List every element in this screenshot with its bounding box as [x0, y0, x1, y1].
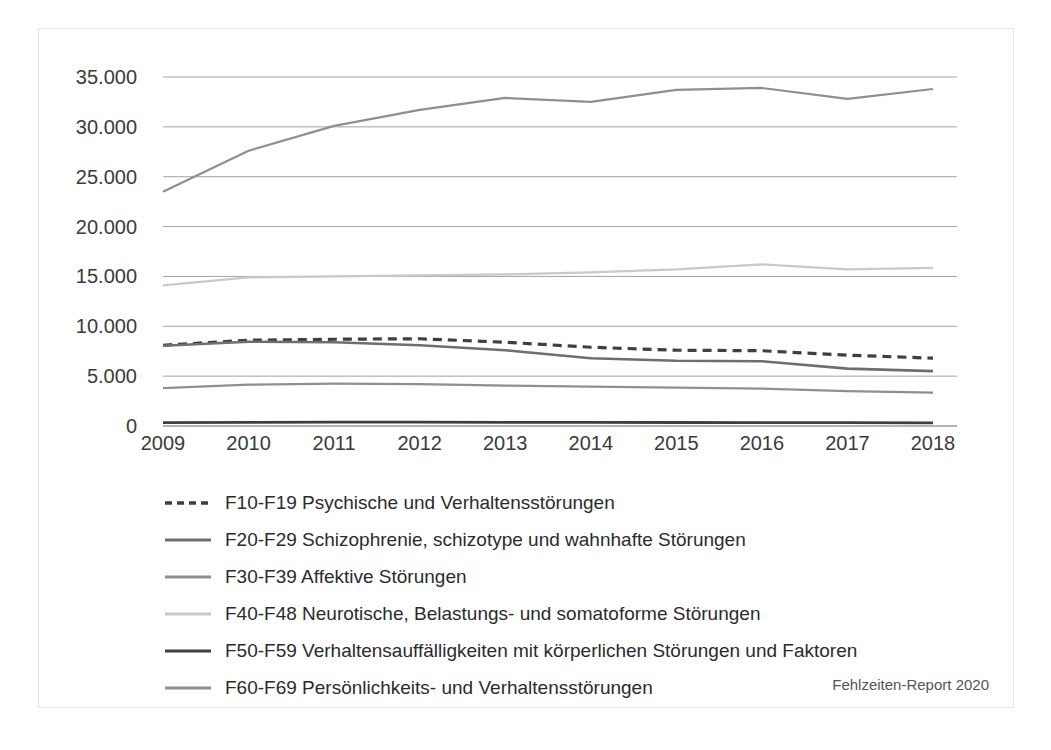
y-tick-label: 25.000: [65, 167, 151, 187]
x-tick-label-2012: 2012: [397, 433, 442, 453]
y-tick-text: 20.000: [65, 217, 151, 237]
y-tick-label: 10.000: [65, 316, 151, 336]
legend-item-label: F20-F29 Schizophrenie, schizotype und wa…: [225, 530, 746, 549]
source-note: Fehlzeiten-Report 2020: [832, 676, 989, 693]
y-tick-text: 30.000: [65, 117, 151, 137]
series-line-F60-F69: [163, 384, 933, 393]
x-tick-label-2009: 2009: [141, 433, 186, 453]
legend-swatch-icon: [165, 681, 211, 695]
legend-item-F20-F29[interactable]: F20-F29 Schizophrenie, schizotype und wa…: [165, 521, 985, 558]
legend-item-label: F10-F19 Psychische und Verhaltensstörung…: [225, 493, 615, 512]
y-tick-text: 5.000: [65, 366, 151, 386]
legend-item-F10-F19[interactable]: F10-F19 Psychische und Verhaltensstörung…: [165, 484, 985, 521]
y-axis: 05.00010.00015.00020.00025.00030.00035.0…: [39, 77, 151, 426]
x-tick-label-2015: 2015: [654, 433, 699, 453]
legend-item-F50-F59[interactable]: F50-F59 Verhaltensauffälligkeiten mit kö…: [165, 632, 985, 669]
x-tick-label-2014: 2014: [569, 433, 614, 453]
legend-item-label: F50-F59 Verhaltensauffälligkeiten mit kö…: [225, 641, 857, 660]
plot-area: [163, 77, 957, 426]
legend-swatch-icon: [165, 644, 211, 658]
chart-legend: F10-F19 Psychische und Verhaltensstörung…: [165, 484, 985, 706]
legend-swatch-icon: [165, 533, 211, 547]
y-tick-label: 5.000: [65, 366, 151, 386]
legend-item-label: F40-F48 Neurotische, Belastungs- und som…: [225, 604, 760, 623]
legend-swatch-icon: [165, 496, 211, 510]
series-line-F20-F29: [163, 342, 933, 371]
x-tick-label-2011: 2011: [313, 433, 356, 453]
legend-swatch-icon: [165, 607, 211, 621]
x-tick-label-2016: 2016: [740, 433, 785, 453]
x-tick-label-2010: 2010: [226, 433, 271, 453]
y-tick-text: 35.000: [65, 67, 151, 87]
legend-item-label: F30-F39 Affektive Störungen: [225, 567, 467, 586]
x-tick-label-2017: 2017: [825, 433, 870, 453]
legend-swatch-icon: [165, 570, 211, 584]
legend-item-label: F60-F69 Persönlichkeits- und Verhaltenss…: [225, 678, 653, 697]
y-tick-text: 25.000: [65, 167, 151, 187]
series-line-F50-F59: [163, 422, 933, 423]
y-tick-label: 20.000: [65, 217, 151, 237]
legend-item-F40-F48[interactable]: F40-F48 Neurotische, Belastungs- und som…: [165, 595, 985, 632]
y-tick-text: 15.000: [65, 266, 151, 286]
series-line-F40-F48: [163, 264, 933, 285]
y-tick-label: 0: [65, 416, 151, 436]
series-line-F30-F39: [163, 88, 933, 192]
x-tick-label-2018: 2018: [911, 433, 956, 453]
x-axis: 2009201020112012201320142015201620172018: [163, 433, 957, 467]
chart-figure: 05.00010.00015.00020.00025.00030.00035.0…: [38, 28, 1014, 708]
y-tick-text: 10.000: [65, 316, 151, 336]
y-tick-label: 30.000: [65, 117, 151, 137]
line-chart-svg: [163, 77, 957, 426]
x-tick-label-2013: 2013: [483, 433, 528, 453]
y-tick-label: 35.000: [65, 67, 151, 87]
legend-item-F30-F39[interactable]: F30-F39 Affektive Störungen: [165, 558, 985, 595]
y-tick-text: 0: [65, 416, 151, 436]
y-tick-label: 15.000: [65, 266, 151, 286]
